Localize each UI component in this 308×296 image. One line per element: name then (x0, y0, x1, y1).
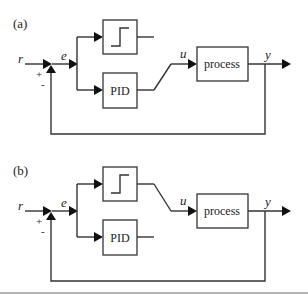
arrow-icon (188, 206, 197, 216)
arrow-icon (94, 32, 103, 42)
signal-r-label: r (18, 198, 24, 213)
arrow-icon (94, 232, 103, 242)
signal-e-label: e (61, 195, 67, 210)
arrow-icon (94, 85, 103, 95)
pid-label: PID (110, 231, 130, 245)
signal-u-label: u (180, 193, 187, 208)
signal-r-label: r (18, 51, 24, 66)
diagram-label-b: (b) (13, 163, 28, 178)
switch-contact (154, 184, 171, 211)
process-label: process (204, 204, 240, 218)
diagram-a: (a) r + - e PID u process (13, 16, 291, 134)
process-label: process (204, 57, 240, 71)
arrow-icon (282, 206, 291, 216)
signal-e-label: e (61, 48, 67, 63)
signal-y-label: y (263, 194, 271, 209)
pid-label: PID (110, 84, 130, 98)
arrow-icon (94, 179, 103, 189)
diagram-b: (b) r + - e PID u process y (13, 163, 291, 281)
minus-sign: - (41, 78, 45, 90)
diagram-label-a: (a) (13, 16, 27, 31)
minus-sign: - (41, 225, 45, 237)
diagram-canvas: (a) r + - e PID u process (0, 0, 308, 296)
signal-y-label: y (263, 47, 271, 62)
switch-contact (154, 64, 171, 90)
arrow-icon (188, 59, 197, 69)
arrow-icon (282, 59, 291, 69)
signal-u-label: u (180, 46, 187, 61)
